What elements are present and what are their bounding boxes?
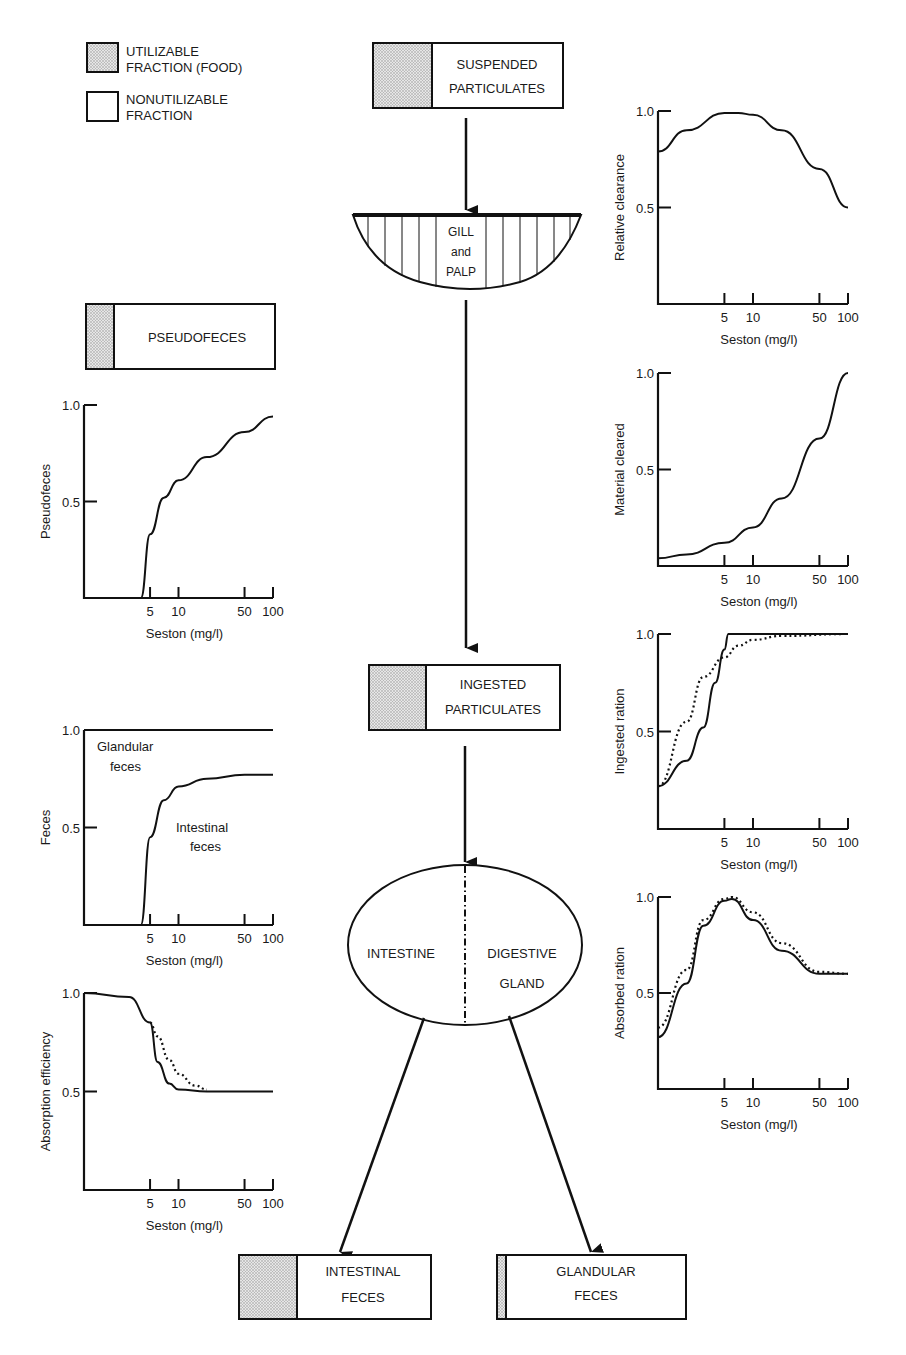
- series-solid: [658, 899, 848, 1037]
- legend-utilizable-label-2: FRACTION (FOOD): [126, 60, 242, 75]
- series-solid: [84, 993, 273, 1092]
- legend-nonutilizable-label-2: FRACTION: [126, 108, 192, 123]
- series-dotted: [150, 1023, 207, 1090]
- x-axis-label: Seston (mg/l): [720, 332, 797, 347]
- x-tick-label: 50: [237, 931, 251, 946]
- y-tick-label: 0.5: [62, 1085, 80, 1100]
- x-tick-label: 100: [262, 604, 284, 619]
- svg-text:PALP: PALP: [446, 265, 476, 279]
- ingested-particulates-box: INGESTED PARTICULATES: [369, 665, 560, 730]
- y-axis-label: Pseudofeces: [38, 463, 53, 539]
- x-tick-label: 10: [171, 1196, 185, 1211]
- svg-text:GLANDULAR: GLANDULAR: [556, 1264, 635, 1279]
- y-tick-label: 0.5: [636, 201, 654, 216]
- y-tick-label: 0.5: [636, 725, 654, 740]
- x-tick-label: 50: [237, 604, 251, 619]
- x-axis-label: Seston (mg/l): [146, 626, 223, 641]
- x-axis-label: Seston (mg/l): [720, 857, 797, 872]
- y-tick-label: 1.0: [62, 398, 80, 413]
- x-tick-label: 5: [146, 931, 153, 946]
- x-tick-label: 100: [837, 1095, 859, 1110]
- axes: [658, 111, 848, 304]
- y-axis-label: Material cleared: [612, 423, 627, 516]
- x-tick-label: 50: [812, 1095, 826, 1110]
- y-axis-label: Relative clearance: [612, 154, 627, 261]
- pseudofeces-box: PSEUDOFECES: [86, 304, 275, 369]
- axes: [658, 897, 848, 1089]
- y-tick-label: 0.5: [636, 986, 654, 1001]
- x-tick-label: 50: [812, 310, 826, 325]
- legend-nonutilizable-swatch: [87, 92, 118, 121]
- y-tick-label: 0.5: [62, 495, 80, 510]
- intestine-label: INTESTINE: [367, 946, 435, 961]
- glandular-feces-box: GLANDULAR FECES: [497, 1255, 686, 1319]
- x-axis-label: Seston (mg/l): [146, 1218, 223, 1233]
- y-axis-label: Absorbed ration: [612, 947, 627, 1039]
- svg-text:SUSPENDED: SUSPENDED: [457, 57, 538, 72]
- svg-text:GILL: GILL: [448, 225, 474, 239]
- pseudofeces-chart: 1.00.551050100Seston (mg/l)Pseudofeces: [38, 398, 284, 641]
- legend-nonutilizable-label: NONUTILIZABLE: [126, 92, 228, 107]
- gut-ellipse: INTESTINE DIGESTIVE GLAND: [348, 865, 582, 1025]
- x-tick-label: 50: [812, 835, 826, 850]
- x-tick-label: 10: [746, 572, 760, 587]
- y-tick-label: 1.0: [636, 627, 654, 642]
- absorbed-ration-chart: 1.00.551050100Seston (mg/l)Absorbed rati…: [612, 890, 859, 1132]
- gill-and-palp: GILL and PALP: [353, 215, 581, 289]
- x-tick-label: 50: [237, 1196, 251, 1211]
- glandular-feces-annotation: Glandular: [97, 739, 154, 754]
- x-tick-label: 10: [171, 604, 185, 619]
- svg-text:PARTICULATES: PARTICULATES: [449, 81, 545, 96]
- series-dotted: [658, 897, 848, 1028]
- x-tick-label: 100: [262, 931, 284, 946]
- intestinal-feces-annotation: Intestinal: [176, 820, 228, 835]
- y-axis-label: Absorption efficiency: [38, 1031, 53, 1151]
- x-tick-label: 100: [837, 835, 859, 850]
- axes: [658, 373, 848, 566]
- x-tick-label: 10: [746, 1095, 760, 1110]
- bivalve-feeding-diagram: UTILIZABLE FRACTION (FOOD) NONUTILIZABLE…: [0, 0, 906, 1355]
- legend-utilizable-label: UTILIZABLE: [126, 44, 199, 59]
- svg-text:FECES: FECES: [574, 1288, 618, 1303]
- x-tick-label: 10: [171, 931, 185, 946]
- y-tick-label: 1.0: [636, 104, 654, 119]
- absorption-efficiency-chart: 1.00.551050100Seston (mg/l)Absorption ef…: [38, 986, 284, 1233]
- x-tick-label: 50: [812, 572, 826, 587]
- series-solid: [658, 634, 848, 786]
- axes: [84, 405, 273, 598]
- y-tick-label: 1.0: [636, 890, 654, 905]
- y-tick-label: 0.5: [636, 463, 654, 478]
- series-dotted: [658, 634, 848, 786]
- x-tick-label: 100: [262, 1196, 284, 1211]
- x-tick-label: 5: [721, 835, 728, 850]
- svg-text:INTESTINAL: INTESTINAL: [325, 1264, 400, 1279]
- suspended-particulates-box: SUSPENDED PARTICULATES: [373, 43, 563, 108]
- x-tick-label: 5: [146, 1196, 153, 1211]
- x-tick-label: 10: [746, 310, 760, 325]
- y-tick-label: 1.0: [636, 366, 654, 381]
- y-axis-label: Feces: [38, 809, 53, 845]
- x-tick-label: 100: [837, 310, 859, 325]
- relative-clearance-chart: 1.00.551050100Seston (mg/l)Relative clea…: [612, 104, 859, 347]
- intestinal-feces-annotation-2: feces: [190, 839, 222, 854]
- y-tick-label: 0.5: [62, 821, 80, 836]
- x-tick-label: 5: [146, 604, 153, 619]
- ingested-ration-chart: 1.00.551050100Seston (mg/l)Ingested rati…: [612, 627, 859, 872]
- arrow-to-glandular-feces: [509, 1016, 591, 1252]
- svg-text:PSEUDOFECES: PSEUDOFECES: [148, 330, 247, 345]
- y-axis-label: Ingested ration: [612, 688, 627, 774]
- arrow-to-intestinal-feces: [340, 1018, 424, 1252]
- intestinal-feces-box: INTESTINAL FECES: [239, 1255, 431, 1319]
- svg-text:INGESTED: INGESTED: [460, 677, 526, 692]
- x-tick-label: 5: [721, 572, 728, 587]
- x-tick-label: 10: [746, 835, 760, 850]
- x-tick-label: 5: [721, 310, 728, 325]
- series-solid: [658, 113, 848, 208]
- glandular-feces-annotation-2: feces: [110, 759, 142, 774]
- series-solid: [141, 417, 273, 598]
- y-tick-label: 1.0: [62, 723, 80, 738]
- legend-utilizable-swatch: [87, 43, 118, 72]
- x-axis-label: Seston (mg/l): [720, 1117, 797, 1132]
- x-axis-label: Seston (mg/l): [146, 953, 223, 968]
- svg-text:PARTICULATES: PARTICULATES: [445, 702, 541, 717]
